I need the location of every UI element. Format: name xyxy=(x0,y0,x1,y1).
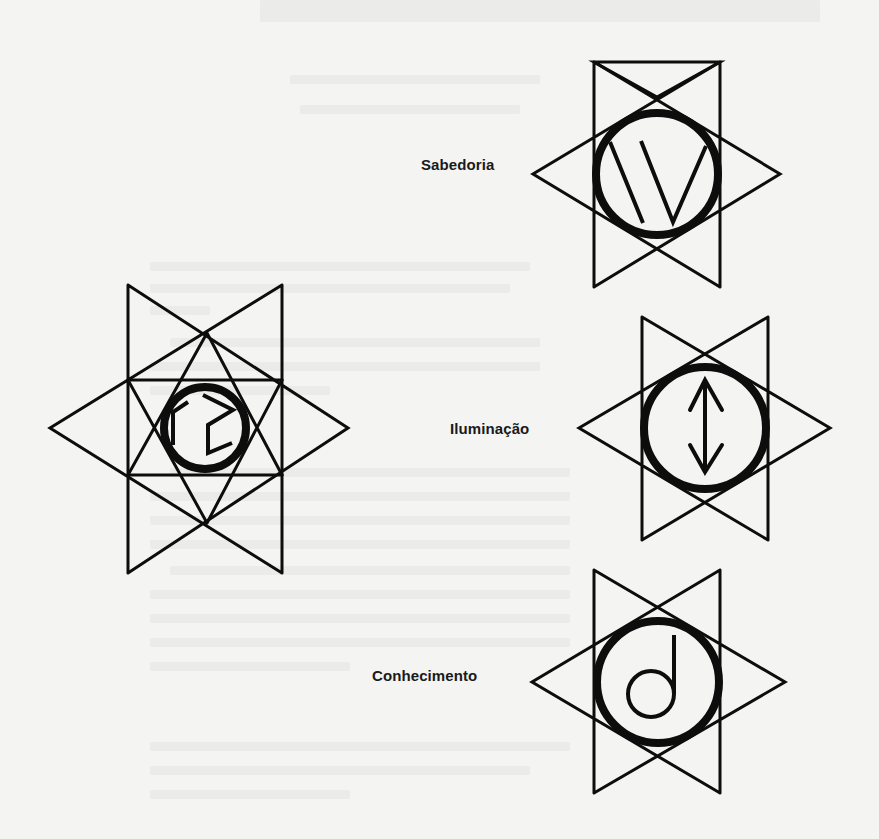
sabedoria-symbol xyxy=(533,62,780,287)
double-arrow-icon xyxy=(690,380,722,472)
book-page: Sabedoria Iluminação Conhecimento xyxy=(0,0,879,839)
d-note-bowl-icon xyxy=(628,671,674,717)
conhecimento-ring-icon xyxy=(597,621,719,743)
conhecimento-symbol xyxy=(532,570,785,793)
inner-triangles-icon xyxy=(128,333,282,523)
cube-fragment-glyph-icon xyxy=(173,395,233,453)
star-outline-icon xyxy=(50,285,348,573)
label-conhecimento: Conhecimento xyxy=(372,667,477,684)
sabedoria-ring-icon xyxy=(596,113,718,235)
left-ring-icon xyxy=(164,387,246,469)
star-outline-icon xyxy=(532,570,785,793)
star-triangle-down-icon xyxy=(594,62,720,97)
sabedoria-glyph-icon xyxy=(610,141,706,223)
label-iluminacao: Iluminação xyxy=(450,420,529,437)
symbols-figure xyxy=(0,0,879,839)
left-star-symbol xyxy=(50,285,348,573)
label-sabedoria: Sabedoria xyxy=(421,156,494,173)
iluminacao-symbol xyxy=(579,317,830,540)
